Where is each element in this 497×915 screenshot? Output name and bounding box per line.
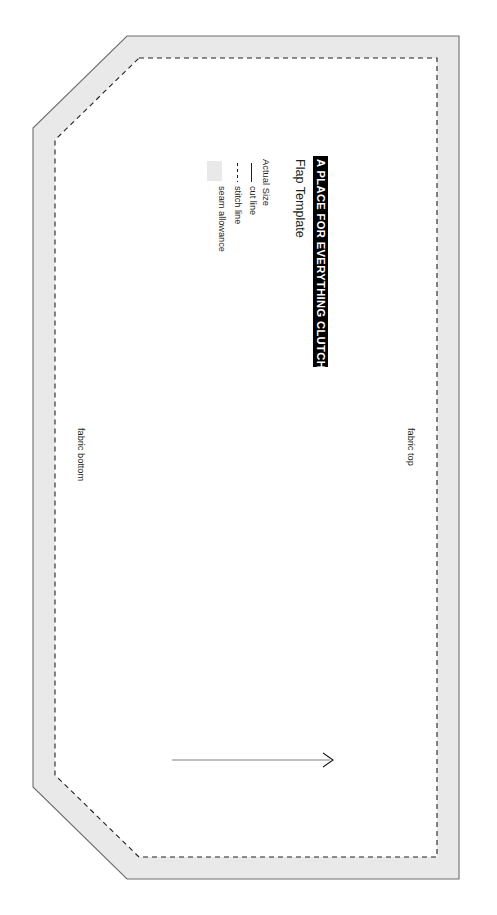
fabric-bottom-label: fabric bottom bbox=[76, 428, 85, 481]
cut-line bbox=[33, 36, 459, 879]
fabric-top-label: fabric top bbox=[406, 428, 415, 466]
legend-stitch-line-label: stitch line bbox=[233, 186, 242, 224]
grainline-arrow bbox=[172, 753, 333, 767]
legend-cut-line-label: cut line bbox=[248, 186, 257, 215]
page-title: A PLACE FOR EVERYTHING CLUTCH bbox=[315, 159, 326, 369]
stitch-line bbox=[55, 58, 437, 857]
scale-note: Actual Size bbox=[262, 159, 271, 206]
template-subtitle: Flap Template bbox=[293, 159, 306, 238]
legend-cut-line-swatch bbox=[251, 163, 252, 182]
legend-seam-allowance-swatch bbox=[207, 161, 222, 181]
seam-allowance-band bbox=[33, 36, 459, 879]
legend-stitch-line-swatch bbox=[237, 163, 238, 182]
legend-seam-allowance-label: seam allowance bbox=[217, 186, 226, 252]
pattern-sheet: A PLACE FOR EVERYTHING CLUTCH Flap Templ… bbox=[0, 0, 497, 915]
pattern-drawing bbox=[0, 0, 497, 915]
